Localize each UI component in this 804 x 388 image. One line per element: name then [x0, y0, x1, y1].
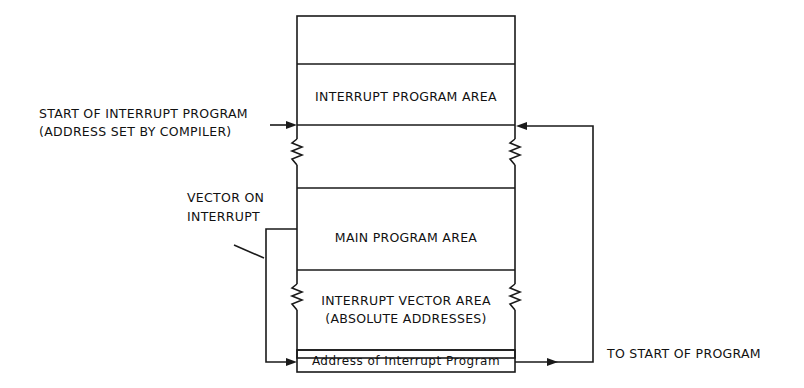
arrowhead-return-icon — [516, 122, 527, 130]
interrupt-vector-area-label-line1: INTERRUPT VECTOR AREA — [297, 293, 515, 309]
start-interrupt-label-line1: START OF INTERRUPT PROGRAM — [39, 106, 248, 122]
start-interrupt-label-line2: (ADDRESS SET BY COMPILER) — [39, 124, 232, 140]
interrupt-vector-area-label-line2: (ABSOLUTE ADDRESSES) — [297, 311, 515, 327]
arrowhead-vector-icon — [286, 358, 297, 366]
vector-leader-line — [234, 245, 264, 258]
break-marks — [292, 139, 520, 310]
arrowhead-start-icon — [286, 121, 297, 129]
address-cell-label: Address of Interrupt Program — [297, 353, 515, 369]
main-program-area-label: MAIN PROGRAM AREA — [297, 230, 515, 246]
return-path — [515, 126, 593, 362]
interrupt-program-area-label: INTERRUPT PROGRAM AREA — [297, 89, 515, 105]
vector-on-interrupt-label-line2: INTERRUPT — [187, 209, 260, 225]
memory-map-diagram — [0, 0, 804, 388]
vector-on-interrupt-label-line1: VECTOR ON — [187, 190, 264, 206]
arrowhead-out-icon — [547, 358, 558, 366]
to-start-of-program-label: TO START OF PROGRAM — [607, 346, 761, 362]
